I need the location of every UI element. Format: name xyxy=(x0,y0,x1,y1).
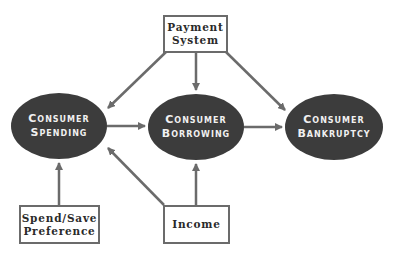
node-label-line2: Bankruptcy xyxy=(297,127,370,141)
node-label-line2: Spending xyxy=(31,126,88,140)
box-label-line1: Payment xyxy=(167,21,223,34)
node-consumer-spending: Consumer Spending xyxy=(11,93,107,159)
node-label-line1: Consumer xyxy=(165,113,226,127)
node-label-line1: Consumer xyxy=(303,113,364,127)
box-income: Income xyxy=(163,205,230,244)
box-label-line2: Preference xyxy=(23,225,95,238)
node-label-line2: Borrowing xyxy=(162,127,230,141)
node-consumer-borrowing: Consumer Borrowing xyxy=(148,94,244,160)
node-label-line1: Consumer xyxy=(28,112,89,126)
box-payment-system: Payment System xyxy=(163,15,228,53)
node-consumer-bankruptcy: Consumer Bankruptcy xyxy=(285,94,383,160)
box-label-line1: Income xyxy=(172,218,221,231)
box-label-line1: Spend/Save xyxy=(22,212,98,225)
box-label-line2: System xyxy=(172,34,219,47)
box-spend-save-preference: Spend/Save Preference xyxy=(19,205,100,244)
